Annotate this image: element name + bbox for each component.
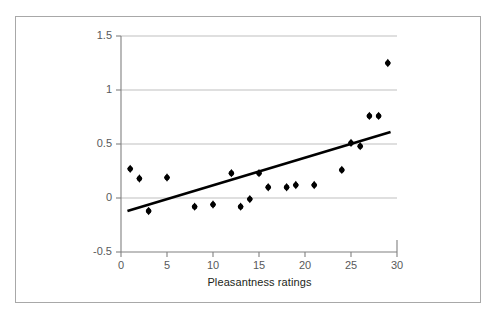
data-point-core: [247, 196, 252, 201]
data-point-core: [266, 185, 271, 190]
x-tick-label-10: 10: [200, 259, 226, 271]
data-point-core: [367, 113, 372, 118]
data-point-core: [339, 167, 344, 172]
data-point-core: [229, 171, 234, 176]
scatter-plot: [0, 0, 497, 320]
data-point-core: [128, 166, 133, 171]
y-axis: [116, 36, 121, 252]
y-tick-label-neg0.5: -0.5: [84, 245, 112, 257]
data-point-core: [210, 202, 215, 207]
x-tick-label-20: 20: [292, 259, 318, 271]
x-axis: [121, 240, 397, 257]
figure-container: 1.5 1 0.5 0 -0.5 0 5 10 15 20 25 30 Plea…: [0, 0, 497, 320]
y-tick-label-1.5: 1.5: [88, 29, 112, 41]
data-point-core: [348, 140, 353, 145]
data-point-core: [293, 182, 298, 187]
x-tick-label-5: 5: [154, 259, 180, 271]
x-tick-label-30: 30: [384, 259, 410, 271]
x-tick-label-15: 15: [246, 259, 272, 271]
x-tick-label-0: 0: [108, 259, 134, 271]
data-point-core: [146, 208, 151, 213]
data-point-core: [256, 171, 261, 176]
data-point-core: [238, 204, 243, 209]
data-point-core: [358, 144, 363, 149]
data-point-core: [376, 113, 381, 118]
data-point-core: [385, 60, 390, 65]
y-tick-label-0: 0: [88, 191, 112, 203]
data-point-core: [164, 175, 169, 180]
data-point-core: [312, 182, 317, 187]
x-tick-label-25: 25: [338, 259, 364, 271]
data-point-group: [127, 59, 391, 215]
y-tick-label-1: 1: [88, 83, 112, 95]
y-tick-label-0.5: 0.5: [88, 137, 112, 149]
x-axis-title: Pleasantness ratings: [121, 276, 398, 288]
data-point-core: [137, 176, 142, 181]
data-point-core: [192, 204, 197, 209]
data-point-core: [284, 185, 289, 190]
